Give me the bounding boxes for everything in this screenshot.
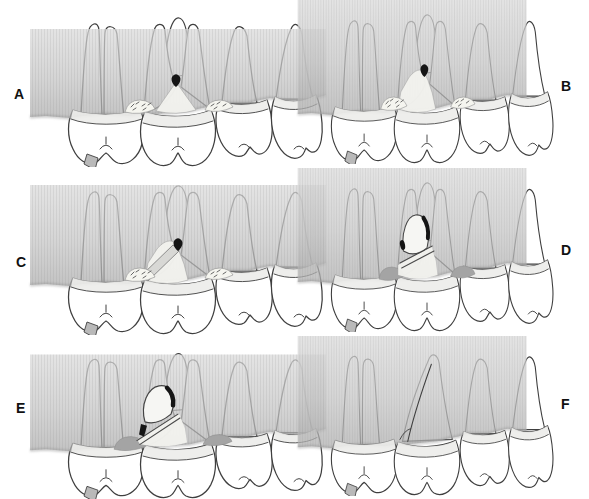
- diagram-panel-a: [28, 3, 328, 167]
- diagram-panel-f: [296, 336, 558, 496]
- diagram-panel-d: [296, 168, 558, 332]
- panel-label-e: E: [16, 400, 26, 416]
- panel-label-a: A: [14, 86, 25, 102]
- panel-label-b: B: [561, 78, 572, 94]
- panel-label-f: F: [561, 396, 570, 412]
- diagram-panel-c: [28, 171, 328, 335]
- panel-label-d: D: [561, 242, 572, 258]
- diagram-panel-b: [296, 0, 558, 164]
- panel-label-c: C: [16, 254, 27, 270]
- dental-diagram-figure: A B C D E F: [0, 0, 589, 499]
- diagram-panel-e: [28, 339, 328, 499]
